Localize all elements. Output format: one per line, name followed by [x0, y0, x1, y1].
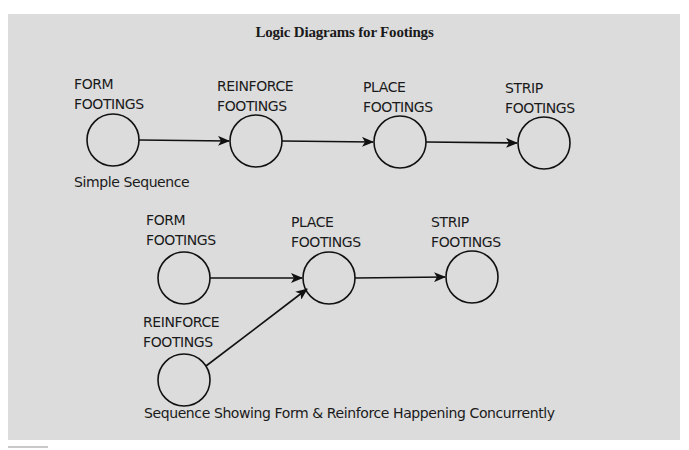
edge-place-to-strip — [426, 142, 517, 143]
edge-reinforce-to-place — [282, 141, 373, 142]
node-form-concurrent — [158, 252, 210, 304]
node-place-simple — [374, 116, 426, 168]
edge-reinforce-to-place — [206, 289, 307, 366]
figure-footer-mark — [8, 446, 48, 448]
node-form-simple — [87, 114, 139, 166]
edge-place-to-strip — [355, 277, 445, 278]
node-reinforce-concurrent — [158, 354, 210, 406]
edge-form-to-reinforce — [139, 140, 229, 141]
node-strip-simple — [518, 117, 570, 169]
node-strip-concurrent — [446, 251, 498, 303]
node-reinforce-simple — [230, 115, 282, 167]
node-place-concurrent — [303, 252, 355, 304]
logic-diagram — [0, 0, 689, 450]
